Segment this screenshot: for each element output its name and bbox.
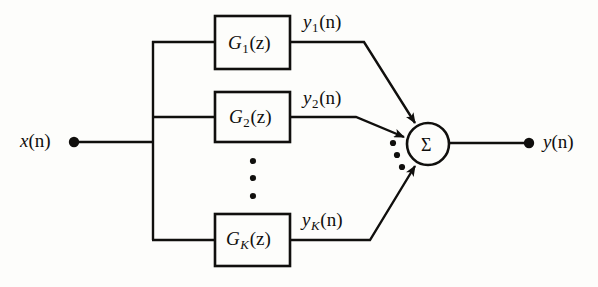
block-gk-subscript: K	[240, 237, 250, 252]
block-g2-name: G	[229, 106, 243, 127]
block-g2-label: G2(z)	[229, 107, 272, 130]
block-gk-arg: (z)	[250, 228, 271, 249]
signal-y1-subscript: 1	[311, 20, 319, 35]
output-wire-g2	[290, 117, 404, 137]
input-signal-arg: (n)	[28, 130, 50, 151]
signal-yk-arg: (n)	[320, 209, 342, 230]
block-g1-name: G	[228, 32, 242, 53]
vertical-ellipsis-dots	[250, 158, 256, 199]
diagonal-ellipsis-dots	[390, 140, 405, 170]
block-g1-label: G1(z)	[228, 33, 271, 56]
input-terminal-dot	[69, 137, 79, 147]
diagram-canvas	[0, 0, 598, 287]
signal-label-yk: yK(n)	[302, 210, 342, 233]
input-signal-label: x(n)	[20, 131, 51, 150]
signal-y2-arg: (n)	[319, 87, 341, 108]
output-terminal-dot	[524, 138, 534, 148]
signal-y2-subscript: 2	[311, 96, 319, 111]
signal-y1-arg: (n)	[319, 11, 341, 32]
signal-label-y2: y2(n)	[303, 88, 341, 111]
output-signal-label: y(n)	[543, 132, 574, 151]
summing-junction-symbol: Σ	[421, 135, 431, 156]
block-gk-label: GK(z)	[226, 229, 271, 252]
block-diagram-figure: x(n) y(n) G1(z) G2(z) GK(z) y1(n) y2(n) …	[0, 0, 598, 287]
block-g2-arg: (z)	[250, 106, 271, 127]
signal-yk-subscript: K	[310, 218, 320, 233]
signal-label-y1: y1(n)	[303, 12, 341, 35]
block-g1-arg: (z)	[249, 32, 270, 53]
output-signal-arg: (n)	[551, 131, 573, 152]
block-gk-name: G	[226, 228, 240, 249]
